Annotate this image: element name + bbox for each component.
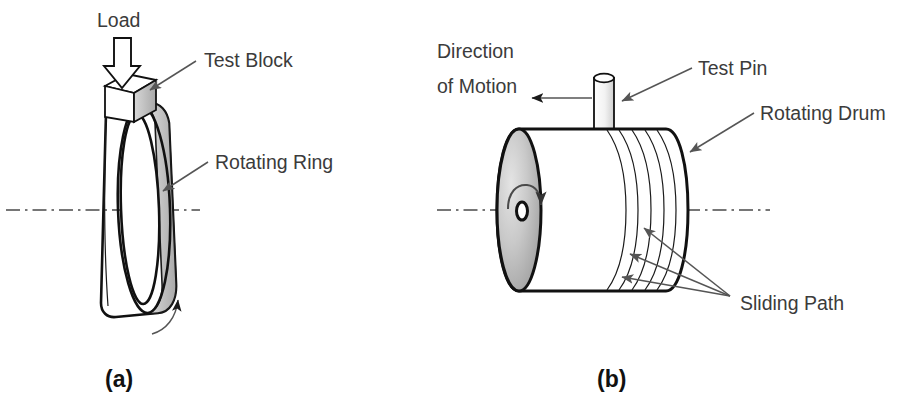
drum-hub-ellipse [517,202,528,220]
test-pin-top-ellipse [594,74,614,83]
figure-root: Load Test Block Rotating Ring (a) [0,0,905,406]
panel-a-label: (a) [105,366,133,392]
tribology-figure-canvas: Load Test Block Rotating Ring (a) [0,0,905,406]
test-block-front-face [105,86,134,122]
load-label: Load [97,9,140,31]
rotating-ring-label: Rotating Ring [215,151,333,173]
test-pin-shape [594,74,614,132]
direction-of-motion-label-line1: Direction [437,40,514,62]
rotating-drum-label: Rotating Drum [760,102,886,124]
test-block-leader-line [150,61,196,90]
test-pin-body [594,78,614,132]
panel-b-label: (b) [597,366,626,392]
direction-of-motion-label-line2: of Motion [437,75,517,97]
panel-a-group: Load Test Block Rotating Ring (a) [6,9,333,392]
sliding-path-label: Sliding Path [740,292,844,314]
panel-b-group: Direction of Motion Test Pin Rotating Dr… [437,40,886,392]
test-pin-leader-line [622,68,692,101]
rotating-drum-leader-line [690,113,754,152]
test-block-label: Test Block [204,49,293,71]
test-pin-label: Test Pin [698,57,767,79]
test-block-shape [105,74,156,122]
